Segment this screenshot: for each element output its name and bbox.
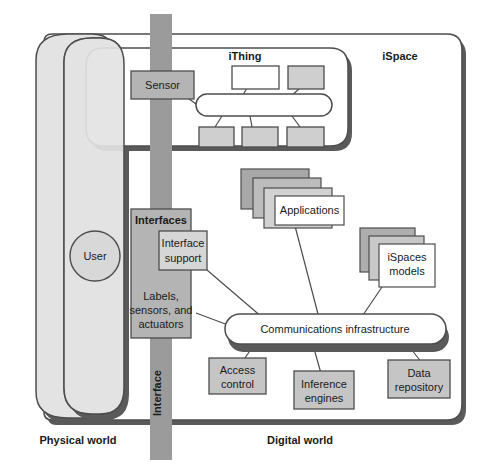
- sensor-label: Sensor: [145, 79, 180, 91]
- communications-infrastructure-node[interactable]: Communications infrastructure: [225, 314, 449, 352]
- interface-support-label-line1: Interface: [162, 237, 205, 249]
- interfaces-title: Interfaces: [135, 214, 187, 226]
- ithing-component-white: [232, 66, 279, 89]
- physical-world-label: Physical world: [39, 434, 116, 446]
- interface-band-label: Interface: [151, 370, 163, 416]
- data-repository-label-line2: repository: [395, 381, 444, 393]
- inference-engines-label-line2: engines: [305, 392, 344, 404]
- access-control-node[interactable]: Access control: [209, 358, 266, 394]
- inference-engines-label-line1: Inference: [301, 378, 347, 390]
- access-control-label-line2: control: [221, 378, 254, 390]
- digital-world-label: Digital world: [267, 434, 333, 446]
- physical-world-inner-oval-overlay: [64, 38, 124, 414]
- diagram-canvas: Sensor Applications: [0, 0, 487, 474]
- user-label: User: [83, 250, 107, 262]
- access-control-label-line1: Access: [220, 364, 256, 376]
- ithing-component-gray-top: [288, 66, 324, 89]
- labels-sensors-actuators-line2: sensors, and: [130, 304, 193, 316]
- ispaces-models-label-line2: models: [389, 265, 425, 277]
- inference-engines-node[interactable]: Inference engines: [294, 371, 354, 409]
- ithing-component-gray-2: [242, 127, 278, 147]
- user-node[interactable]: User: [70, 231, 120, 281]
- ithing-component-gray-1: [199, 127, 234, 147]
- ispaces-models-stack[interactable]: iSpaces models: [360, 228, 435, 287]
- ithing-component-gray-3: [287, 127, 324, 147]
- interface-support-label-line2: support: [165, 252, 202, 264]
- ispaces-models-label-line1: iSpaces: [387, 251, 427, 263]
- ithing-label: iThing: [229, 50, 262, 62]
- data-repository-label-line1: Data: [407, 367, 431, 379]
- labels-sensors-actuators-line3: actuators: [138, 318, 184, 330]
- sensor-node[interactable]: Sensor: [131, 71, 194, 99]
- ispace-label: iSpace: [382, 50, 417, 62]
- ithing-bus: [196, 94, 332, 116]
- data-repository-node[interactable]: Data repository: [388, 360, 450, 398]
- applications-label: Applications: [280, 204, 340, 216]
- communications-infrastructure-label: Communications infrastructure: [260, 323, 409, 335]
- labels-sensors-actuators-line1: Labels,: [143, 290, 178, 302]
